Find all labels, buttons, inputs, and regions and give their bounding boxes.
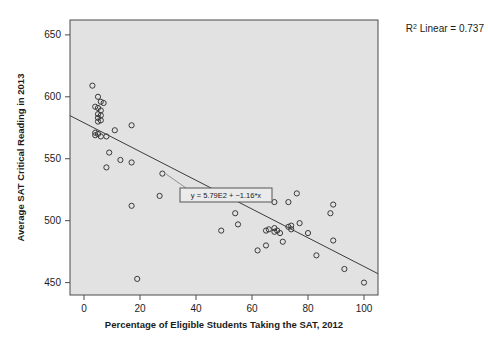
chart-canvas: 450500550600650020406080100Percentage of…: [0, 0, 488, 353]
plot-area-frame: [70, 20, 378, 295]
x-axis-tick-label: 20: [134, 303, 146, 314]
y-axis-tick-label: 500: [44, 215, 61, 226]
y-axis-tick-label: 450: [44, 277, 61, 288]
y-axis-tick-label: 650: [44, 29, 61, 40]
scatter-plot-figure: 450500550600650020406080100Percentage of…: [0, 0, 488, 353]
x-axis-tick-label: 0: [81, 303, 87, 314]
y-axis-tick-label: 600: [44, 91, 61, 102]
x-axis-tick-label: 60: [246, 303, 258, 314]
x-axis-tick-label: 40: [190, 303, 202, 314]
y-axis-label: Average SAT Critical Reading in 2013: [15, 74, 26, 242]
r-squared-annotation: R2 Linear = 0.737: [406, 23, 485, 35]
x-axis-tick-label: 100: [356, 303, 373, 314]
y-axis-tick-label: 550: [44, 153, 61, 164]
x-axis-tick-label: 80: [302, 303, 314, 314]
equation-label: y = 5.79E2 + −1.16*x: [191, 191, 262, 200]
x-axis-label: Percentage of Eligible Students Taking t…: [105, 319, 343, 330]
